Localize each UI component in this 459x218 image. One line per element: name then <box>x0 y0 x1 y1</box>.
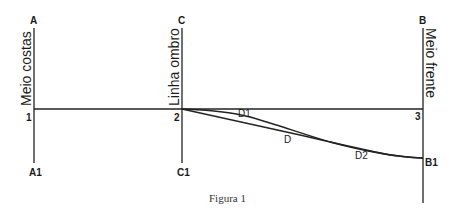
label-point-2: 2 <box>174 112 180 123</box>
caption-meio-frente: Meio frente <box>423 28 439 98</box>
label-D1: D1 <box>238 108 251 119</box>
label-C: C <box>178 15 185 26</box>
label-C1: C1 <box>177 167 190 178</box>
pattern-diagram: A A1 C C1 B B1 1 2 3 D1 D D2 Meio costas… <box>0 0 459 218</box>
label-B: B <box>419 15 426 26</box>
figure-caption: Figura 1 <box>209 192 246 204</box>
label-D: D <box>284 134 291 145</box>
label-point-1: 1 <box>26 112 32 123</box>
label-A: A <box>30 15 37 26</box>
label-D2: D2 <box>355 150 368 161</box>
label-point-3: 3 <box>415 111 421 122</box>
label-A1: A1 <box>29 167 42 178</box>
caption-linha-ombro: Linha ombro <box>166 28 182 106</box>
label-B1: B1 <box>425 157 438 168</box>
caption-meio-costas: Meio costas <box>18 31 34 106</box>
